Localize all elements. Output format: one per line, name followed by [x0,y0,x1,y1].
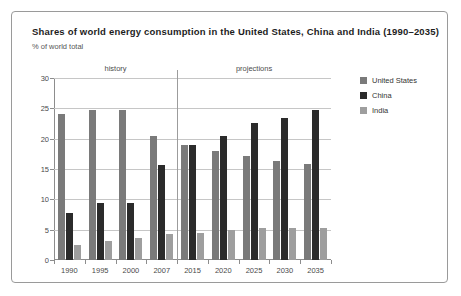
legend-item[interactable]: China [360,91,417,100]
legend-label: India [372,106,388,115]
chart-plot: 051015202530 199019952000200720152020202… [54,78,331,260]
bar [74,245,81,260]
x-axis-tick [300,260,301,264]
chart-title: Shares of world energy consumption in th… [32,26,439,37]
bar [189,145,196,260]
bar [181,145,188,260]
x-axis-tick-label: 1995 [92,266,109,275]
bar-group [208,78,239,260]
bar-group [177,78,208,260]
x-axis-tick-label: 2020 [215,266,232,275]
bar [220,136,227,260]
x-axis-tick-label: 2030 [276,266,293,275]
x-axis-tick [146,260,147,264]
legend-label: China [372,91,392,100]
bar [320,228,327,260]
bar [97,203,104,260]
history-projection-divider [177,70,178,260]
bar-group [116,78,147,260]
y-axis-tick-label: 20 [41,134,49,143]
x-axis-tick-label: 2015 [184,266,201,275]
legend-item[interactable]: United States [360,76,417,85]
legend-label: United States [372,76,417,85]
y-axis-tick-label: 15 [41,165,49,174]
bar [127,203,134,260]
legend-swatch-icon [360,77,367,84]
bar [212,151,219,260]
x-axis-tick-label: 2007 [153,266,170,275]
y-axis-tick-label: 30 [41,74,49,83]
chart-subtitle: % of world total [32,42,83,51]
bar [228,230,235,260]
legend-swatch-icon [360,92,367,99]
x-axis-tick-label: 1990 [61,266,78,275]
bar [312,110,319,260]
x-axis-tick-label: 2035 [307,266,324,275]
legend-item[interactable]: India [360,106,417,115]
x-axis-tick [208,260,209,264]
legend-swatch-icon [360,107,367,114]
bar [166,234,173,260]
bar [304,164,311,260]
y-axis-tick-label: 25 [41,104,49,113]
x-axis-tick [177,260,178,264]
x-axis-tick-label: 2000 [123,266,140,275]
bar [58,114,65,260]
bar [150,136,157,260]
y-axis-tick-label: 10 [41,195,49,204]
x-axis-tick-label: 2025 [246,266,263,275]
bar-group [239,78,270,260]
y-axis-tick-label: 0 [45,256,49,265]
bar-group [146,78,177,260]
bar-group [54,78,85,260]
bar [66,213,73,260]
bar [281,118,288,260]
x-axis-tick [116,260,117,264]
bar [197,233,204,260]
x-axis-tick [331,260,332,264]
chart-legend: United StatesChinaIndia [360,76,417,121]
bar [135,238,142,260]
bar-group [85,78,116,260]
bar [273,161,280,260]
chart-card: Shares of world energy consumption in th… [11,11,448,283]
bar [105,241,112,260]
bar-group [269,78,300,260]
bar [119,110,126,260]
x-axis-tick [54,260,55,264]
bar [259,228,266,260]
bar-group [300,78,331,260]
bar [158,165,165,260]
bar [89,110,96,260]
x-axis-tick [239,260,240,264]
x-axis-tick [85,260,86,264]
bar [251,123,258,260]
x-axis-tick [269,260,270,264]
bar [289,228,296,260]
annotation-history: history [105,64,127,73]
bar [243,156,250,260]
y-axis-tick-label: 5 [45,225,49,234]
annotation-projections: projections [236,64,272,73]
